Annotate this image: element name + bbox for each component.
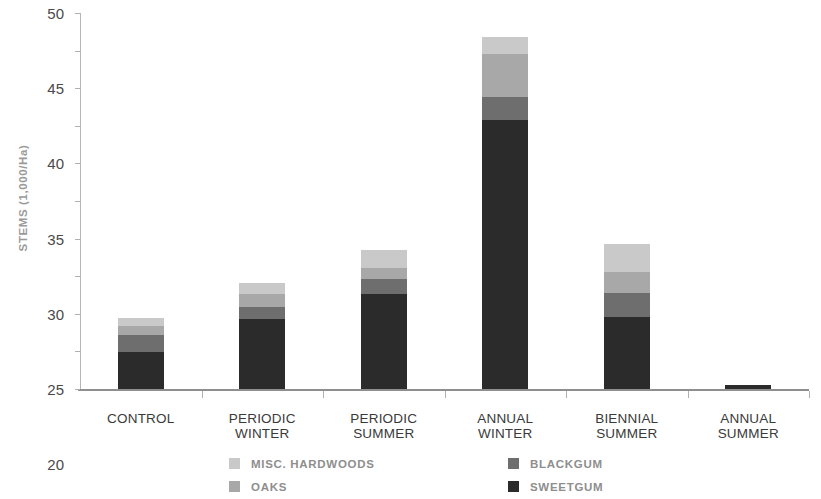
y-axis-title: STEMS (1,000/Ha) (17, 113, 29, 283)
y-axis-tick-label: 45 (47, 80, 64, 97)
bar-segment-oaks (482, 54, 528, 97)
x-axis-tick (323, 391, 324, 398)
y-axis-tick-label: 20 (47, 456, 64, 473)
x-axis-category-label-line: ANNUAL (678, 411, 818, 426)
bar-segment-blackgum (361, 279, 407, 294)
x-axis-category-label-line: WINTER (192, 426, 332, 441)
legend-label: MISC. HARDWOODS (251, 458, 375, 470)
bar-periodic-winter (239, 283, 285, 389)
x-axis-category-label-line: ANNUAL (435, 411, 575, 426)
bar-biennial-summer (604, 244, 650, 389)
y-axis-tick-label: 25 (47, 381, 64, 398)
x-axis-category-label-line: PERIODIC (314, 411, 454, 426)
y-axis-tick: 45 (75, 51, 80, 52)
x-axis-category-label-line: PERIODIC (192, 411, 332, 426)
bar-segment-misc-hardwoods (239, 283, 285, 294)
x-axis-tick (445, 391, 446, 398)
bar-periodic-summer (361, 250, 407, 389)
legend-swatch-icon (508, 481, 519, 492)
legend-label: BLACKGUM (530, 458, 603, 470)
legend-swatch-icon (229, 458, 240, 469)
bar-control (118, 318, 164, 389)
bar-segment-oaks (239, 294, 285, 307)
bar-segment-sweetgum (482, 120, 528, 389)
legend-item-sweetgum: SWEETGUM (508, 475, 759, 498)
legend-item-blackgum: BLACKGUM (508, 452, 759, 475)
y-axis-tick: 10 (75, 314, 80, 315)
x-axis-category-label-line: SUMMER (314, 426, 454, 441)
bar-segment-oaks (118, 326, 164, 335)
bar-segment-misc-hardwoods (604, 244, 650, 272)
y-axis-tick: 50 (75, 13, 80, 14)
y-axis-tick: 25 (75, 201, 80, 202)
y-axis-tick: 15 (75, 276, 80, 277)
x-axis-category-label-line: WINTER (435, 426, 575, 441)
x-axis-tick (566, 391, 567, 398)
x-axis-line (78, 389, 809, 391)
bar-segment-blackgum (239, 307, 285, 319)
x-axis-tick (809, 391, 810, 398)
legend-swatch-icon (229, 481, 240, 492)
plot-area: 05101520253035404550CONTROLPERIODICWINTE… (80, 13, 809, 389)
chart-legend: MISC. HARDWOODSBLACKGUMOAKSSWEETGUM (229, 452, 759, 498)
x-axis-category-label: ANNUALWINTER (435, 411, 575, 441)
y-axis-tick: 5 (75, 351, 80, 352)
y-axis-tick-label: 30 (47, 305, 64, 322)
x-axis-category-label-line: SUMMER (557, 426, 697, 441)
x-axis-category-label-line: BIENNIAL (557, 411, 697, 426)
bar-segment-misc-hardwoods (482, 37, 528, 54)
x-axis-category-label: PERIODICSUMMER (314, 411, 454, 441)
x-axis-category-label-line: CONTROL (71, 411, 211, 426)
x-axis-tick (688, 391, 689, 398)
bar-segment-misc-hardwoods (118, 318, 164, 326)
bar-segment-sweetgum (361, 294, 407, 389)
bar-segment-sweetgum (239, 319, 285, 389)
y-axis-tick-label: 50 (47, 5, 64, 22)
bar-segment-blackgum (118, 335, 164, 352)
bar-segment-oaks (604, 272, 650, 293)
x-axis-category-label: ANNUALSUMMER (678, 411, 818, 441)
y-axis-tick: 35 (75, 126, 80, 127)
legend-label: SWEETGUM (530, 481, 603, 493)
y-axis-tick-label: 35 (47, 230, 64, 247)
x-axis-tick (202, 391, 203, 398)
x-axis-category-label: PERIODICWINTER (192, 411, 332, 441)
x-axis-category-label: CONTROL (71, 411, 211, 426)
y-axis-line (80, 13, 81, 390)
bar-annual-summer (725, 385, 771, 389)
legend-label: OAKS (251, 481, 287, 493)
bar-segment-blackgum (482, 97, 528, 120)
x-axis-category-label-line: SUMMER (678, 426, 818, 441)
legend-item-oaks: OAKS (229, 475, 480, 498)
y-axis-tick: 0 (75, 389, 80, 390)
bar-segment-sweetgum (118, 352, 164, 389)
y-axis-tick: 40 (75, 88, 80, 89)
bar-segment-sweetgum (725, 385, 771, 389)
bar-segment-sweetgum (604, 317, 650, 389)
bar-segment-oaks (361, 268, 407, 279)
legend-swatch-icon (508, 458, 519, 469)
x-axis-category-label: BIENNIALSUMMER (557, 411, 697, 441)
bar-annual-winter (482, 37, 528, 389)
legend-item-misc-hardwoods: MISC. HARDWOODS (229, 452, 480, 475)
bar-segment-blackgum (604, 293, 650, 317)
bar-segment-misc-hardwoods (361, 250, 407, 268)
stacked-bar-chart: STEMS (1,000/Ha) 05101520253035404550CON… (0, 0, 821, 499)
y-axis-tick: 20 (75, 239, 80, 240)
y-axis-tick-label: 40 (47, 155, 64, 172)
y-axis-tick: 30 (75, 163, 80, 164)
